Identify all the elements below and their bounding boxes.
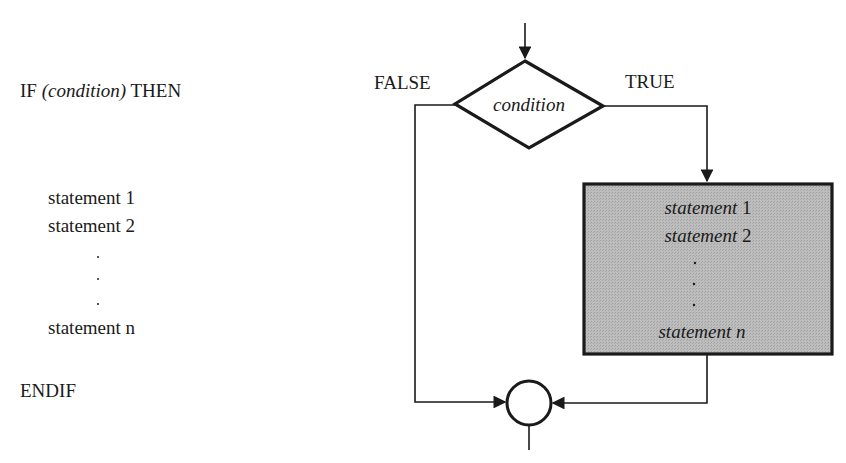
decision-label: condition xyxy=(493,94,565,115)
true-branch-path xyxy=(603,106,707,181)
box-exit-path xyxy=(553,355,707,403)
false-label: FALSE xyxy=(374,72,431,93)
process-box: statement 1 statement 2 statement n xyxy=(584,184,832,354)
true-label: TRUE xyxy=(625,71,675,92)
box-statement-n: statement n xyxy=(658,321,745,342)
box-ellipsis-dot xyxy=(693,304,695,306)
flowchart: condition FALSE TRUE statement 1 stateme… xyxy=(0,0,846,463)
box-statement-1: statement 1 xyxy=(664,197,751,218)
false-branch-path xyxy=(415,105,505,402)
decision-diamond: condition xyxy=(455,61,603,148)
box-ellipsis-dot xyxy=(694,262,696,264)
junction-circle xyxy=(507,381,551,450)
box-statement-2: statement 2 xyxy=(664,225,751,246)
box-ellipsis-dot xyxy=(693,283,695,285)
